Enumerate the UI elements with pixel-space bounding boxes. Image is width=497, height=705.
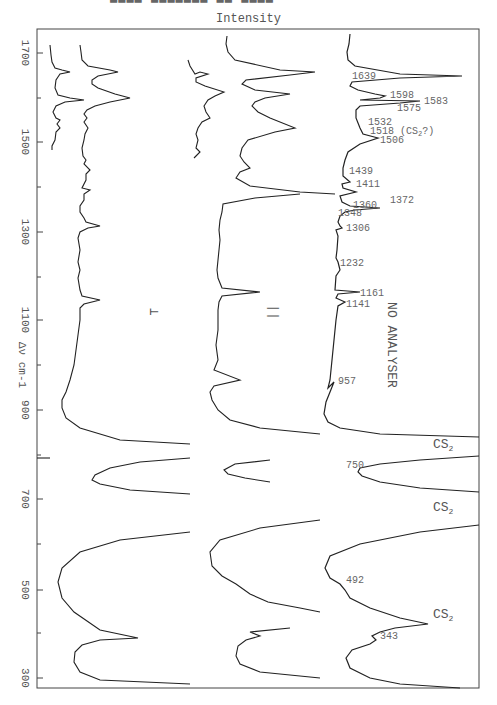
peak-492: 492 bbox=[346, 575, 364, 586]
para-label: || bbox=[266, 304, 281, 320]
peak-343: 343 bbox=[380, 631, 398, 642]
peak-1141: 1141 bbox=[346, 299, 370, 310]
tick-1100: 1100 bbox=[19, 307, 31, 333]
peak-1583: 1583 bbox=[424, 96, 448, 107]
series-labels: ⊥ || NO ANALYSER bbox=[146, 302, 399, 388]
tick-300: 300 bbox=[19, 668, 31, 688]
peak-1598: 1598 bbox=[390, 90, 414, 101]
tick-700: 700 bbox=[19, 489, 31, 509]
y-axis-tick-labels: 1700 1500 1300 1100 900 700 500 300 Δν c… bbox=[16, 40, 31, 688]
cs2-label-820: CS2 bbox=[433, 437, 454, 453]
cs2-label-395: CS2 bbox=[433, 607, 454, 623]
tick-1700: 1700 bbox=[19, 40, 31, 66]
cs2-label-680: CS2 bbox=[433, 500, 454, 516]
peak-957: 957 bbox=[338, 376, 356, 387]
y-axis-ticks bbox=[37, 53, 43, 678]
tick-900: 900 bbox=[19, 400, 31, 420]
peak-1232: 1232 bbox=[340, 258, 364, 269]
peak-1439: 1439 bbox=[349, 166, 373, 177]
spectra-chart: 1700 1500 1300 1100 900 700 500 300 Δν c… bbox=[0, 0, 497, 705]
peak-1372: 1372 bbox=[390, 195, 414, 206]
peak-750: 750 bbox=[346, 460, 364, 471]
tick-500: 500 bbox=[19, 580, 31, 600]
series-perpendicular bbox=[37, 45, 190, 684]
peak-1306: 1306 bbox=[346, 223, 370, 234]
y-axis-title: Δν cm-1 bbox=[16, 342, 28, 389]
peak-1161: 1161 bbox=[360, 288, 384, 299]
no-analyser-label: NO ANALYSER bbox=[384, 302, 399, 388]
tick-1500: 1500 bbox=[19, 129, 31, 155]
peak-1411: 1411 bbox=[356, 179, 380, 190]
tick-1300: 1300 bbox=[19, 219, 31, 245]
series-parallel bbox=[188, 36, 335, 678]
peak-1506: 1506 bbox=[380, 135, 404, 146]
perp-label: ⊥ bbox=[146, 308, 161, 316]
peak-1639: 1639 bbox=[352, 71, 376, 82]
peak-1348: 1348 bbox=[338, 208, 362, 219]
peak-1575: 1575 bbox=[397, 103, 421, 114]
